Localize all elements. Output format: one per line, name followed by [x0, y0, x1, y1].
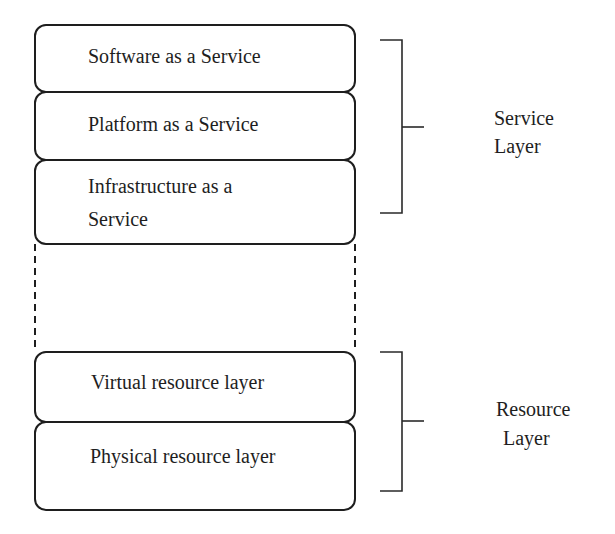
service-layer-label-line2: Layer: [494, 131, 541, 161]
service-layer-bracket: [380, 40, 402, 213]
resource-layer-label-line2: Layer: [503, 423, 550, 453]
iaas-label-line2: Service: [88, 203, 148, 236]
physical-label: Physical resource layer: [90, 440, 275, 473]
paas-label: Platform as a Service: [88, 108, 259, 141]
virtual-label: Virtual resource layer: [91, 366, 264, 399]
resource-layer-bracket: [380, 352, 402, 491]
resource-layer-label-line1: Resource: [496, 394, 570, 424]
saas-label: Software as a Service: [88, 40, 261, 73]
iaas-label-line1: Infrastructure as a: [88, 170, 232, 203]
service-layer-label-line1: Service: [494, 103, 554, 133]
